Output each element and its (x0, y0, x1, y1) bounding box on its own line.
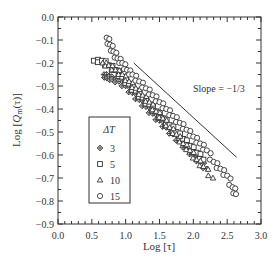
y-tick-label: −0.7 (36, 173, 54, 184)
y-tick-label: −0.6 (36, 150, 54, 161)
y-tick-label: 0.0 (42, 12, 55, 23)
scatter-chart: 0.0−0.1−0.2−0.3−0.4−0.5−0.6−0.7−0.8−0.9 … (0, 0, 279, 269)
x-tick-label: 3.0 (255, 230, 268, 241)
slope-annotation: Slope = −1/3 (193, 83, 245, 94)
x-tick-label: 0.0 (52, 230, 65, 241)
y-tick-label: −0.1 (36, 35, 54, 46)
y-tick-label: −0.8 (36, 196, 54, 207)
legend-label: 5 (110, 159, 115, 170)
legend-label: 10 (110, 175, 120, 186)
y-tick-label: −0.3 (36, 81, 54, 92)
x-tick-label: 0.5 (86, 230, 99, 241)
y-tick-label: −0.4 (36, 104, 54, 115)
y-tick-labels: 0.0−0.1−0.2−0.3−0.4−0.5−0.6−0.7−0.8−0.9 (36, 12, 54, 230)
y-tick-label: −0.5 (36, 127, 54, 138)
legend-title: ΔT (102, 124, 116, 135)
x-tick-label: 2.5 (221, 230, 234, 241)
x-tick-label: 2.0 (187, 230, 200, 241)
y-axis-label: Log [Qm(τ)] (10, 93, 24, 147)
legend-label: 3 (110, 143, 115, 154)
x-tick-label: 1.0 (119, 230, 132, 241)
legend-label: 15 (110, 191, 120, 202)
x-axis-label: Log [τ] (143, 240, 175, 252)
y-tick-label: −0.9 (36, 219, 54, 230)
y-tick-label: −0.2 (36, 58, 54, 69)
